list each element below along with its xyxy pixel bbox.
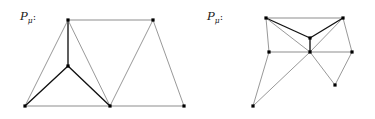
edge-top-left-apex-to-bottom-left-corner <box>25 20 68 106</box>
right-edges <box>253 18 352 106</box>
edge-left-mid-to-bottom-left-far <box>253 52 269 106</box>
vertex-left-mid <box>267 50 270 53</box>
edge-right-mid-to-bottom-right-low <box>335 52 352 85</box>
vertex-inner-middle <box>66 64 69 67</box>
right-polygon-diagram: Pμ: <box>187 0 375 119</box>
edge-center-crossing-to-bottom-right-low <box>310 52 335 85</box>
edge-top-left-apex-to-bottom-middle <box>68 20 110 106</box>
vertex-center-crossing <box>308 50 311 53</box>
left-panel-label: Pμ: <box>19 9 36 25</box>
edge-top-right-apex-to-right-mid <box>343 18 352 52</box>
vertex-top-right-apex <box>151 18 154 21</box>
left-label-suffix: : <box>33 11 36 22</box>
edge-top-right-apex-to-bottom-middle <box>110 20 153 106</box>
edge-inner-middle-to-bottom-left-corner <box>25 66 68 106</box>
figure-root: Pμ: Pμ: <box>0 0 375 119</box>
edge-top-left-apex-to-left-mid <box>266 18 269 52</box>
vertex-bottom-right-low <box>333 83 336 86</box>
vertex-inner-upper-middle <box>308 36 311 39</box>
vertex-bottom-middle <box>108 104 111 107</box>
left-polygon-diagram: Pμ: <box>0 0 187 119</box>
left-label-base: P <box>19 9 28 23</box>
left-edges <box>25 20 184 106</box>
edge-center-crossing-to-bottom-left-far <box>253 52 310 106</box>
vertex-top-left-apex <box>66 18 69 21</box>
right-label-suffix: : <box>220 11 223 22</box>
right-panel-label: Pμ: <box>206 9 223 25</box>
vertex-top-right-apex <box>341 16 344 19</box>
edge-inner-middle-to-bottom-middle <box>68 66 110 106</box>
vertex-bottom-left-corner <box>23 104 26 107</box>
edge-top-right-apex-to-bottom-right-corner <box>153 20 184 106</box>
vertex-right-mid <box>350 50 353 53</box>
vertex-bottom-right-corner <box>182 104 185 107</box>
right-label-base: P <box>206 9 215 23</box>
vertex-bottom-left-far <box>251 104 254 107</box>
vertex-top-left-apex <box>264 16 267 19</box>
